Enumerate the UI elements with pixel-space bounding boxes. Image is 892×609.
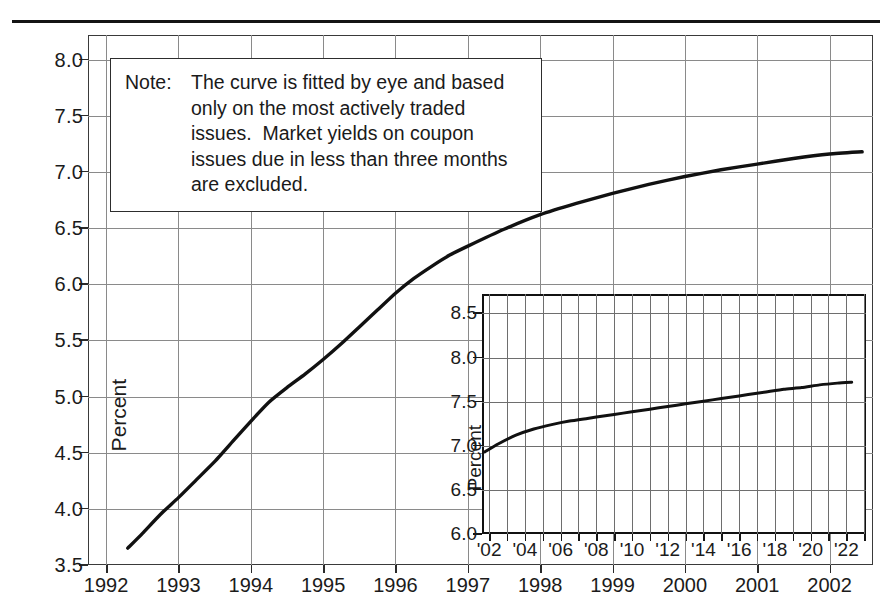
gridline-vertical (864, 294, 865, 534)
gridline-horizontal (482, 313, 866, 314)
note-line: are excluded. (191, 172, 531, 198)
x-tick-label: 2000 (663, 574, 708, 597)
y-tick-label: 6.5 (55, 217, 83, 240)
x-tick-label: 1996 (373, 574, 418, 597)
gridline-vertical (757, 294, 758, 534)
y-tick-label: 7.5 (55, 104, 83, 127)
gridline-vertical (703, 294, 704, 534)
x-tick-mark (686, 534, 687, 541)
x-tick-mark (543, 534, 544, 541)
x-tick-mark (650, 534, 651, 541)
y-tick-label: 4.0 (55, 497, 83, 520)
gridline-vertical (561, 294, 562, 534)
x-tick-mark (106, 565, 108, 573)
inset-chart: 6.06.57.07.58.08.5 '02'04'06'08'10'12'14… (482, 294, 866, 534)
gridline-horizontal (88, 284, 873, 285)
gridline-vertical (686, 294, 687, 534)
x-tick-label: '22 (834, 539, 859, 561)
gridline-vertical (775, 294, 776, 534)
x-tick-label: '14 (691, 539, 716, 561)
x-tick-label: 2001 (735, 574, 780, 597)
x-tick-label: 1998 (518, 574, 563, 597)
note-line: The curve is fitted by eye and based (191, 70, 531, 96)
y-tick-label: 6.0 (451, 523, 477, 545)
gridline-vertical (650, 294, 651, 534)
gridline-horizontal (482, 402, 866, 403)
x-tick-mark (828, 534, 829, 541)
x-tick-mark (540, 565, 542, 573)
gridline-vertical (846, 294, 847, 534)
x-tick-mark (578, 534, 579, 541)
x-tick-label: 1992 (84, 574, 129, 597)
x-tick-mark (721, 534, 722, 541)
x-tick-mark (613, 565, 615, 573)
x-tick-label: '16 (727, 539, 752, 561)
x-tick-label: 1995 (301, 574, 346, 597)
x-tick-mark (757, 565, 759, 573)
x-tick-mark (507, 534, 508, 541)
chart-figure: 3.54.04.55.05.56.06.57.07.58.0 199219931… (0, 0, 892, 609)
gridline-vertical (489, 294, 490, 534)
x-tick-label: '12 (655, 539, 680, 561)
x-tick-label: 2002 (807, 574, 852, 597)
x-tick-label: '02 (477, 539, 502, 561)
x-tick-label: 1994 (229, 574, 274, 597)
note-line: only on the most actively traded (191, 96, 531, 122)
y-tick-label: 8.0 (451, 347, 477, 369)
gridline-vertical (106, 35, 107, 565)
x-tick-mark (323, 565, 325, 573)
x-tick-mark (757, 534, 758, 541)
y-tick-label: 7.5 (451, 391, 477, 413)
note-line: issues due in less than three months (191, 147, 531, 173)
x-tick-mark (793, 534, 794, 541)
note-text: The curve is fitted by eye and basedonly… (191, 70, 531, 198)
note-row: Note: The curve is fitted by eye and bas… (125, 70, 531, 198)
y-tick-label: 7.0 (55, 160, 83, 183)
gridline-vertical (525, 294, 526, 534)
y-tick-label: 4.5 (55, 441, 83, 464)
x-tick-label: '04 (512, 539, 537, 561)
x-tick-label: 1997 (446, 574, 491, 597)
x-tick-mark (251, 565, 253, 573)
note-label: Note: (125, 70, 191, 198)
note-box: Note: The curve is fitted by eye and bas… (110, 58, 542, 212)
inset-chart-y-axis-title: Percent (464, 425, 486, 490)
gridline-vertical (828, 294, 829, 534)
x-tick-label: 1999 (590, 574, 635, 597)
gridline-vertical (614, 294, 615, 534)
gridline-horizontal (482, 358, 866, 359)
x-tick-mark (614, 534, 615, 541)
inset-chart-frame (482, 294, 866, 534)
gridline-horizontal (88, 228, 873, 229)
y-tick-label: 5.5 (55, 329, 83, 352)
x-tick-mark (685, 565, 687, 573)
gridline-vertical (811, 294, 812, 534)
x-tick-label: '08 (584, 539, 609, 561)
gridline-vertical (739, 294, 740, 534)
main-chart-y-axis-title: Percent (107, 379, 131, 451)
y-tick-label: 8.5 (451, 302, 477, 324)
x-tick-mark (830, 565, 832, 573)
gridline-vertical (578, 294, 579, 534)
gridline-vertical (721, 294, 722, 534)
gridline-vertical (543, 294, 544, 534)
gridline-vertical (507, 294, 508, 534)
gridline-horizontal (482, 490, 866, 491)
x-tick-label: 1993 (156, 574, 201, 597)
y-tick-label: 8.0 (55, 48, 83, 71)
gridline-vertical (668, 294, 669, 534)
x-tick-label: '18 (763, 539, 788, 561)
x-tick-mark (864, 534, 865, 541)
gridline-vertical (793, 294, 794, 534)
x-tick-label: '20 (798, 539, 823, 561)
y-tick-label: 5.0 (55, 385, 83, 408)
x-tick-mark (178, 565, 180, 573)
gridline-horizontal (482, 446, 866, 447)
y-tick-label: 6.0 (55, 273, 83, 296)
gridline-vertical (632, 294, 633, 534)
y-tick-label: 3.5 (55, 554, 83, 577)
note-line: issues. Market yields on coupon (191, 121, 531, 147)
x-tick-label: '06 (548, 539, 573, 561)
x-tick-label: '10 (620, 539, 645, 561)
gridline-vertical (596, 294, 597, 534)
